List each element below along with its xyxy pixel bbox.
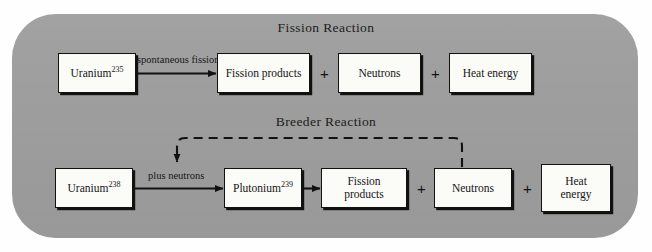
connector-overlay <box>0 0 652 252</box>
diagram-canvas: Fission Reaction Breeder Reaction Uraniu… <box>0 0 652 252</box>
breeder-neutron-feedback-arrow <box>177 138 462 167</box>
